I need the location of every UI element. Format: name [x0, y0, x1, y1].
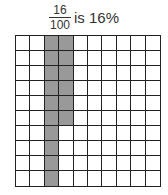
- grid-cell: [146, 126, 160, 141]
- grid-cell: [131, 126, 145, 141]
- grid-cell: [117, 51, 131, 66]
- grid-cell: [131, 171, 145, 186]
- grid-cell: [88, 141, 102, 156]
- grid-cell: [146, 111, 160, 126]
- grid-cell: [117, 126, 131, 141]
- grid-cell: [16, 51, 30, 66]
- grid-cell: [131, 156, 145, 171]
- grid-cell: [16, 81, 30, 96]
- grid-cell: [131, 81, 145, 96]
- grid-cell: [117, 66, 131, 81]
- grid-cell-shaded: [59, 51, 73, 66]
- grid-cell: [131, 111, 145, 126]
- grid-cell: [30, 51, 44, 66]
- grid-cell: [88, 81, 102, 96]
- grid-cell: [74, 36, 88, 51]
- grid-cell-shaded: [59, 81, 73, 96]
- grid-cell: [30, 81, 44, 96]
- grid-cell: [88, 111, 102, 126]
- grid-cell: [117, 36, 131, 51]
- grid-cell-shaded: [59, 36, 73, 51]
- grid-cell: [30, 141, 44, 156]
- grid-cell: [30, 111, 44, 126]
- grid-cell: [146, 66, 160, 81]
- grid-cell: [74, 81, 88, 96]
- caption: 16 100 is 16%: [0, 0, 168, 34]
- grid-cell: [146, 36, 160, 51]
- grid-cell: [16, 141, 30, 156]
- fraction: 16 100: [49, 4, 71, 31]
- grid-cell: [16, 36, 30, 51]
- grid-cell: [88, 66, 102, 81]
- grid-cell: [102, 36, 116, 51]
- grid-cell: [131, 141, 145, 156]
- grid-cell: [74, 66, 88, 81]
- grid-cell-shaded: [45, 66, 59, 81]
- grid-cell-shaded: [45, 51, 59, 66]
- grid-cell: [16, 126, 30, 141]
- grid-cell: [102, 126, 116, 141]
- grid-cell: [146, 171, 160, 186]
- grid-cell: [88, 156, 102, 171]
- grid-cell: [117, 111, 131, 126]
- grid-cell-shaded: [45, 156, 59, 171]
- grid-cell-shaded: [45, 96, 59, 111]
- grid-cell: [30, 36, 44, 51]
- grid-cell: [131, 66, 145, 81]
- grid-cell: [74, 171, 88, 186]
- grid-cell: [88, 51, 102, 66]
- grid-cell-shaded: [45, 81, 59, 96]
- grid-cell: [16, 66, 30, 81]
- grid-cell: [88, 36, 102, 51]
- grid-cell: [102, 51, 116, 66]
- grid-cell: [30, 156, 44, 171]
- grid-cell: [74, 156, 88, 171]
- percent-text: is 16%: [74, 9, 119, 26]
- grid-cell: [146, 141, 160, 156]
- grid-cell: [102, 66, 116, 81]
- grid-cell-shaded: [45, 171, 59, 186]
- numerator: 16: [53, 4, 66, 16]
- grid-cell: [74, 141, 88, 156]
- grid-cell: [74, 126, 88, 141]
- grid-cell: [74, 51, 88, 66]
- grid-cell: [30, 96, 44, 111]
- grid-cell: [131, 51, 145, 66]
- grid-cell: [117, 141, 131, 156]
- grid-cell-shaded: [45, 36, 59, 51]
- grid-cell: [16, 156, 30, 171]
- grid-cell: [102, 141, 116, 156]
- grid-cell: [59, 126, 73, 141]
- grid-cell: [88, 126, 102, 141]
- grid-cell: [117, 96, 131, 111]
- grid-cell: [16, 96, 30, 111]
- grid-cell: [59, 171, 73, 186]
- grid-cell: [88, 171, 102, 186]
- grid-cell-shaded: [59, 66, 73, 81]
- denominator: 100: [50, 19, 70, 31]
- grid-cell-shaded: [59, 96, 73, 111]
- grid-cell: [131, 96, 145, 111]
- grid-cell: [102, 96, 116, 111]
- grid-cell-shaded: [45, 111, 59, 126]
- grid-cell: [146, 96, 160, 111]
- grid-cell-shaded: [45, 141, 59, 156]
- grid-cell: [16, 111, 30, 126]
- grid-cell: [102, 156, 116, 171]
- grid-cell: [30, 66, 44, 81]
- grid-cell: [146, 156, 160, 171]
- grid-cell: [146, 51, 160, 66]
- grid-cell: [16, 171, 30, 186]
- grid-cell: [102, 171, 116, 186]
- grid-cell: [117, 81, 131, 96]
- grid-cell: [74, 111, 88, 126]
- grid-cell: [59, 156, 73, 171]
- grid-cell: [117, 171, 131, 186]
- grid-cell: [146, 81, 160, 96]
- grid-cell: [30, 126, 44, 141]
- grid-cell: [117, 156, 131, 171]
- grid-cell: [102, 111, 116, 126]
- grid-cell: [131, 36, 145, 51]
- grid-cell-shaded: [59, 111, 73, 126]
- hundred-grid: [15, 35, 161, 187]
